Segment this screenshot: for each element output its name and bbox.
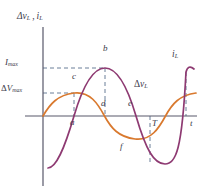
point-f-label: f bbox=[120, 142, 123, 151]
y-axis-label-current: iL bbox=[36, 11, 42, 21]
voltage-curve-label: ΔvL bbox=[134, 80, 148, 90]
point-d-label: d bbox=[101, 99, 106, 108]
point-c-label: c bbox=[72, 72, 76, 81]
point-a-label: a bbox=[70, 118, 75, 127]
i-max-label: Imax bbox=[5, 58, 18, 68]
current-subscript: L bbox=[175, 52, 179, 59]
current-curve-label: iL bbox=[172, 50, 178, 60]
y-axis-label-voltage: ΔvL bbox=[17, 11, 30, 21]
v-max-subscript: max bbox=[12, 87, 22, 93]
time-axis-t-label: t bbox=[190, 119, 193, 128]
dashed-guide-lines bbox=[43, 68, 186, 162]
y-axis-label: ΔvL , iL bbox=[17, 12, 43, 22]
voltage-subscript: L bbox=[144, 82, 148, 89]
point-b-label: b bbox=[103, 44, 108, 53]
i-max-subscript: max bbox=[8, 61, 18, 67]
period-T-label: T bbox=[152, 119, 157, 128]
point-e-label: e bbox=[128, 99, 132, 108]
ac-inductor-waveform-figure: ΔvL , iL Imax ΔVmax a b c d e f T t iL Δ… bbox=[0, 0, 205, 195]
delta-v-max-label: ΔVmax bbox=[1, 84, 22, 94]
